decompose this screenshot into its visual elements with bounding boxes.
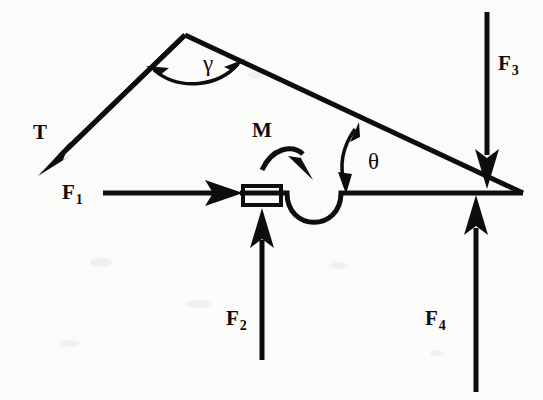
label-angle-theta: θ — [368, 150, 379, 173]
label-force-F3: F3 — [498, 53, 518, 74]
force-vector-T — [38, 35, 185, 176]
label-force-F4-text: F — [425, 306, 438, 330]
label-force-F1-subscript: 1 — [76, 192, 83, 207]
force-vector-F3 — [475, 12, 499, 189]
label-moment-M-text: M — [252, 118, 272, 142]
force-vector-F2 — [250, 208, 274, 360]
label-moment-M: M — [252, 120, 272, 141]
label-force-F4-subscript: 4 — [439, 318, 446, 333]
label-force-F1-text: F — [62, 180, 75, 204]
label-force-F4: F4 — [425, 308, 445, 329]
angle-arc-gamma — [146, 59, 245, 84]
angle-arc-theta — [338, 122, 360, 194]
label-force-T-text: T — [33, 120, 47, 144]
label-force-F2: F2 — [226, 308, 246, 329]
force-T-arrowhead — [38, 142, 73, 176]
label-force-T: T — [33, 122, 47, 143]
label-angle-gamma: γ — [203, 52, 213, 75]
member-right-segment — [185, 35, 523, 193]
label-force-F1: F1 — [62, 182, 82, 203]
label-force-F2-text: F — [226, 306, 239, 330]
free-body-diagram-page: T F1 F2 F3 F4 M γ θ — [0, 0, 543, 400]
force-T-shaft — [60, 35, 185, 156]
moment-arrow-M — [262, 142, 313, 180]
force-vector-F4 — [464, 195, 488, 392]
label-force-F3-text: F — [498, 51, 511, 75]
force-vector-F1 — [103, 180, 243, 206]
label-force-F3-subscript: 3 — [512, 63, 519, 78]
label-angle-gamma-text: γ — [203, 51, 213, 76]
label-angle-theta-text: θ — [368, 149, 379, 174]
label-force-F2-subscript: 2 — [240, 318, 247, 333]
